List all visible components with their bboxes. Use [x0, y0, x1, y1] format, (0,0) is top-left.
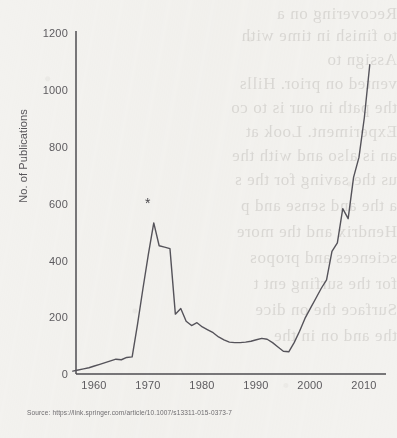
plot-canvas	[0, 0, 397, 400]
axes	[76, 31, 386, 374]
source-caption: Source: https://link.springer.com/articl…	[27, 409, 232, 416]
data-series-line	[73, 65, 370, 371]
publications-line-chart: No. of Publications 1200 1000 800 600 40…	[0, 0, 397, 400]
